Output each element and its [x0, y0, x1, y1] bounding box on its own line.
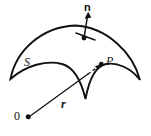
point-p-dot	[99, 62, 104, 67]
normal-vector-arrowhead	[85, 12, 91, 18]
surface-normal-diagram: n S P r 0	[0, 0, 151, 136]
point-p-label: P	[106, 55, 113, 67]
surface-label: S	[24, 56, 30, 68]
origin-label: 0	[14, 110, 20, 122]
position-vector-label: r	[61, 98, 66, 110]
position-vector-solid	[30, 74, 89, 117]
surface-foot-dot	[82, 36, 87, 41]
diagram-canvas	[0, 0, 151, 136]
normal-vector-label: n	[84, 2, 91, 13]
origin-dot	[26, 114, 31, 119]
